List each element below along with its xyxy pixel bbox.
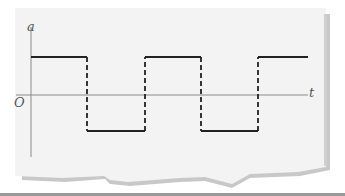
x-axis-label: t	[309, 86, 314, 99]
paper-card	[15, 8, 326, 184]
figure-card: a t O	[0, 0, 345, 196]
y-axis-label: a	[27, 20, 35, 33]
paper-edge	[324, 14, 327, 166]
origin-label: O	[14, 96, 25, 109]
bottom-rule	[0, 193, 345, 196]
square-wave-graph	[0, 0, 345, 196]
